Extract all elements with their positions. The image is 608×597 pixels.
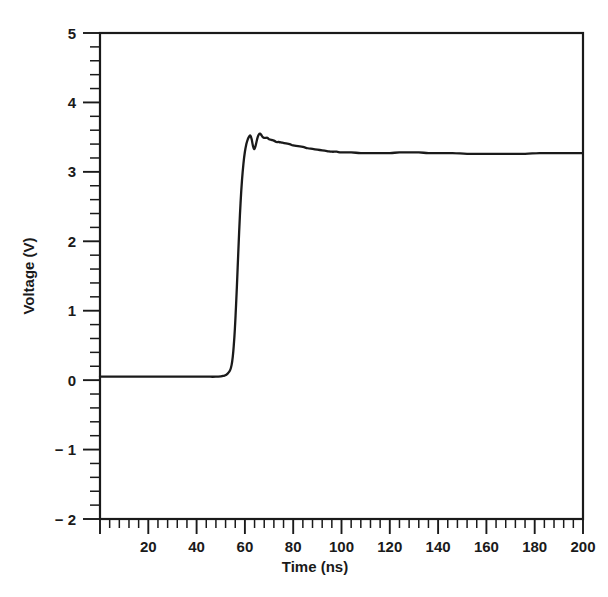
y-axis-tick-label: 0: [68, 372, 76, 389]
plot-frame-border: [100, 33, 583, 519]
x-axis-tick-label: 200: [570, 538, 595, 555]
x-axis-tick-label: 180: [522, 538, 547, 555]
x-axis-major-ticks: [100, 519, 583, 534]
y-axis-tick-label: 3: [68, 163, 76, 180]
x-axis-tick-label: 20: [140, 538, 157, 555]
y-axis-major-ticks: [83, 33, 100, 519]
x-axis-tick-label: 160: [474, 538, 499, 555]
voltage-waveform-line: [100, 134, 583, 377]
x-axis-tick-labels: 20406080100120140160180200: [140, 538, 596, 555]
y-axis-tick-label: 1: [68, 302, 76, 319]
y-axis-tick-label: 2: [68, 233, 76, 250]
y-axis-tick-labels: − 2− 1012345: [55, 25, 77, 528]
x-axis-tick-label: 140: [426, 538, 451, 555]
y-axis-title: Voltage (V): [20, 237, 37, 314]
y-axis-minor-ticks: [90, 47, 100, 505]
y-axis-tick-label: − 2: [55, 511, 76, 528]
x-axis-tick-label: 40: [188, 538, 205, 555]
x-axis-tick-label: 120: [377, 538, 402, 555]
x-axis-title: Time (ns): [282, 558, 348, 575]
voltage-vs-time-line-chart: − 2− 1012345 20406080100120140160180200 …: [0, 0, 608, 597]
chart-figure: − 2− 1012345 20406080100120140160180200 …: [0, 0, 608, 597]
x-axis-tick-label: 100: [329, 538, 354, 555]
y-axis-tick-label: 4: [68, 94, 77, 111]
x-axis-tick-label: 60: [237, 538, 254, 555]
x-axis-tick-label: 80: [285, 538, 302, 555]
y-axis-tick-label: − 1: [55, 441, 76, 458]
y-axis-tick-label: 5: [68, 25, 76, 42]
